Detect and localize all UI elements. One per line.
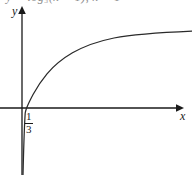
y-axis-label: y bbox=[12, 5, 17, 17]
log-graph-figure: y = log₃(x − 1), x > 1 y x 1 3 bbox=[0, 0, 192, 175]
graph-canvas bbox=[0, 0, 192, 175]
x-intercept-fraction-label: 1 3 bbox=[25, 111, 33, 135]
logarithmic-curve bbox=[23, 31, 192, 175]
fraction-numerator: 1 bbox=[25, 111, 33, 122]
x-axis-label: x bbox=[180, 110, 185, 122]
fraction-denominator: 3 bbox=[25, 124, 33, 135]
y-axis-arrowhead-icon bbox=[18, 6, 26, 14]
